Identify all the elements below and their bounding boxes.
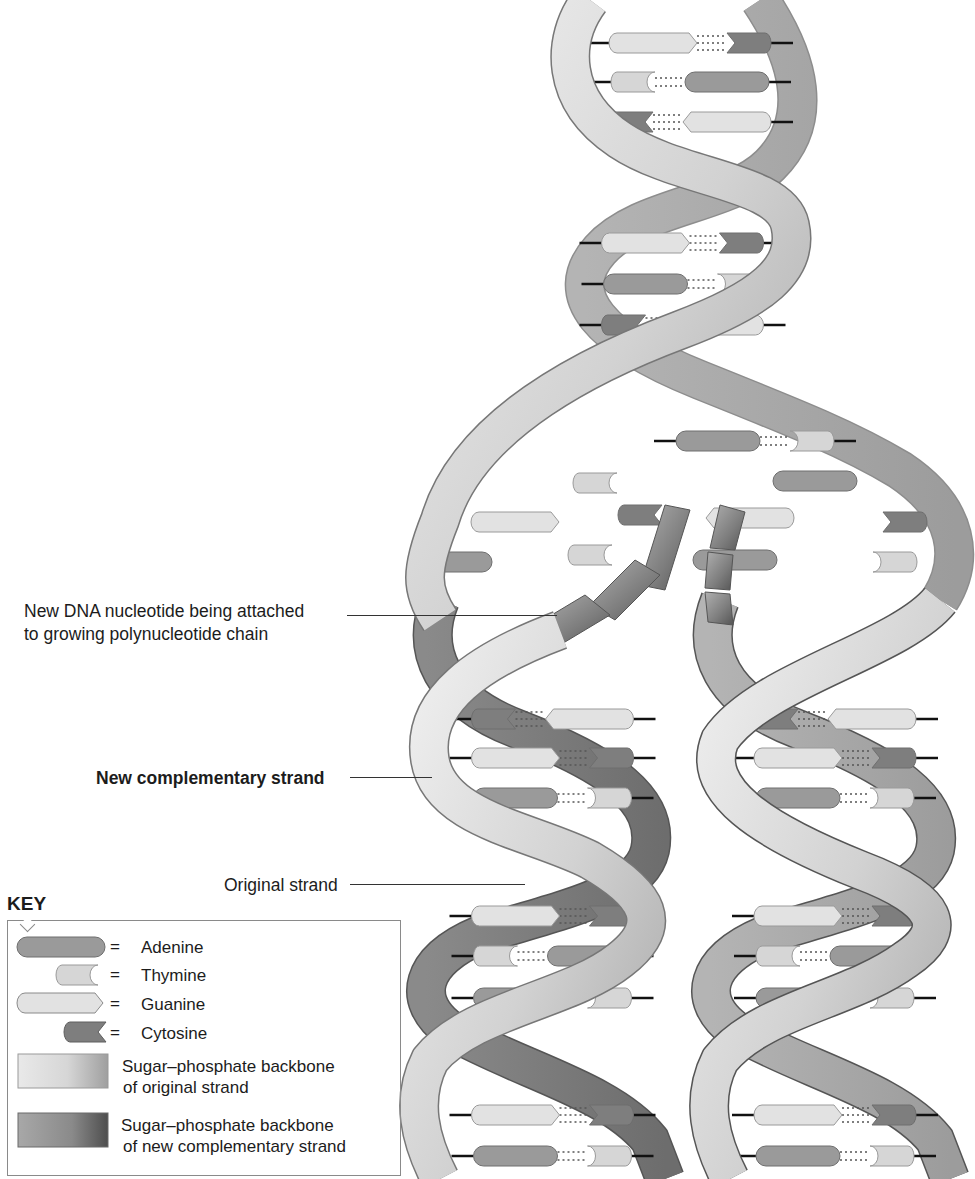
free-nucleotide	[873, 552, 917, 572]
cytosine-base	[727, 33, 771, 53]
guanine-base	[683, 112, 771, 132]
base-pair	[587, 33, 793, 53]
base-pair	[450, 709, 656, 729]
adenine-base	[773, 471, 857, 491]
key-label-new-backbone-line2: of new complementary strand	[123, 1137, 346, 1157]
base-pair	[734, 1146, 936, 1166]
base-pair	[452, 1146, 654, 1166]
free-nucleotide	[618, 505, 662, 525]
adenine-base	[474, 1146, 558, 1166]
key-label-adenine: Adenine	[141, 938, 203, 958]
leader-line-new-strand	[350, 777, 432, 778]
adenine-base	[685, 72, 769, 92]
thymine-base	[790, 431, 834, 451]
thymine-base	[474, 946, 518, 966]
adenine-base	[676, 431, 760, 451]
thymine-base	[870, 788, 914, 808]
guanine-base	[546, 709, 634, 729]
callout-new-nucleotide-line2: to growing polynucleotide chain	[24, 624, 268, 645]
callout-new-complementary-strand: New complementary strand	[96, 768, 325, 789]
leader-line-original-strand	[350, 884, 525, 885]
guanine-base	[472, 906, 560, 926]
callout-original-strand: Original strand	[224, 875, 338, 896]
key-label-new-backbone-line1: Sugar–phosphate backbone	[121, 1116, 334, 1136]
thymine-base	[870, 1146, 914, 1166]
thymine-base	[756, 946, 800, 966]
base-pair	[732, 1105, 938, 1125]
base-pair	[580, 233, 786, 253]
leader-line-new-nucleotide	[347, 615, 557, 616]
key-label-original-backbone-line2: of original strand	[123, 1078, 249, 1098]
free-nucleotide	[568, 545, 612, 565]
guanine-base	[609, 33, 697, 53]
callout-new-nucleotide-line1: New DNA nucleotide being attached	[24, 601, 304, 622]
key-equals-adenine: =	[110, 937, 120, 957]
key-equals-thymine: =	[110, 965, 120, 985]
free-nucleotide	[693, 550, 777, 570]
thymine-base	[588, 1146, 632, 1166]
cytosine-base	[883, 512, 927, 532]
new-strand-segments-left	[535, 505, 690, 645]
guanine-base	[472, 1105, 560, 1125]
thymine-base	[611, 72, 655, 92]
key-equals-cytosine: =	[110, 1023, 120, 1043]
adenine-base	[756, 1146, 840, 1166]
guanine-base	[602, 233, 690, 253]
guanine-base	[472, 748, 560, 768]
guanine-base	[471, 512, 559, 532]
base-pair	[450, 1105, 656, 1125]
adenine-base	[604, 274, 688, 294]
key-label-cytosine: Cytosine	[141, 1024, 207, 1044]
cytosine-base	[720, 233, 764, 253]
key-equals-guanine: =	[110, 994, 120, 1014]
thymine-base	[568, 545, 612, 565]
free-nucleotide	[471, 512, 559, 532]
key-label-guanine: Guanine	[141, 995, 205, 1015]
cytosine-base	[618, 505, 662, 525]
free-nucleotide	[883, 512, 927, 532]
guanine-base	[828, 709, 916, 729]
thymine-base	[573, 473, 617, 493]
key-title: KEY	[7, 893, 46, 915]
thymine-base	[873, 552, 917, 572]
base-pair	[654, 431, 856, 451]
guanine-base	[754, 1105, 842, 1125]
key-label-thymine: Thymine	[141, 966, 206, 986]
key-label-original-backbone-line1: Sugar–phosphate backbone	[122, 1057, 335, 1077]
base-pair	[450, 748, 656, 768]
adenine-base	[693, 550, 777, 570]
free-nucleotide	[573, 473, 617, 493]
base-pair	[589, 72, 791, 92]
free-nucleotide	[773, 471, 857, 491]
guanine-base	[754, 748, 842, 768]
base-pair	[732, 748, 938, 768]
thymine-base	[588, 788, 632, 808]
guanine-base	[754, 906, 842, 926]
